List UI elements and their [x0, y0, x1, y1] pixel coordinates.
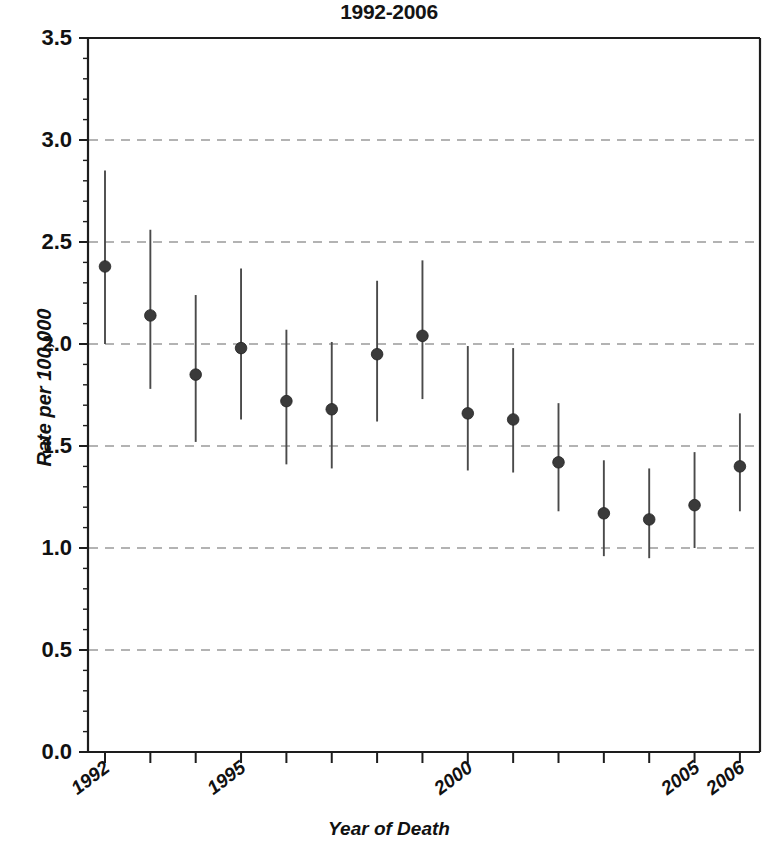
y-tick-label: 0.0: [12, 741, 72, 763]
x-axis-ticks: [105, 752, 740, 763]
y-tick-label: 0.5: [12, 639, 72, 661]
data-point: [689, 499, 701, 511]
data-point: [598, 508, 610, 520]
data-point: [326, 403, 338, 415]
error-bars: [105, 171, 740, 559]
data-point: [643, 514, 655, 526]
gridlines: [89, 140, 760, 650]
data-point: [417, 330, 429, 342]
y-tick-label: 1.0: [12, 537, 72, 559]
data-point: [281, 395, 293, 407]
chart-container: 1992-2006 Rate per 100,000 Year of Death…: [0, 0, 778, 851]
data-point: [553, 457, 565, 469]
data-point: [235, 342, 247, 354]
data-point: [190, 369, 202, 381]
plot-area: [0, 0, 778, 851]
y-tick-label: 2.5: [12, 231, 72, 253]
data-point: [145, 310, 157, 322]
y-axis-ticks: [79, 38, 88, 752]
data-point: [734, 461, 746, 473]
y-tick-label: 3.5: [12, 27, 72, 49]
axis-frame: [88, 38, 760, 752]
y-tick-label: 3.0: [12, 129, 72, 151]
data-point: [507, 414, 519, 426]
data-point: [371, 348, 383, 360]
y-tick-label: 2.0: [12, 333, 72, 355]
data-point: [99, 261, 111, 273]
data-point: [462, 408, 474, 420]
y-tick-label: 1.5: [12, 435, 72, 457]
